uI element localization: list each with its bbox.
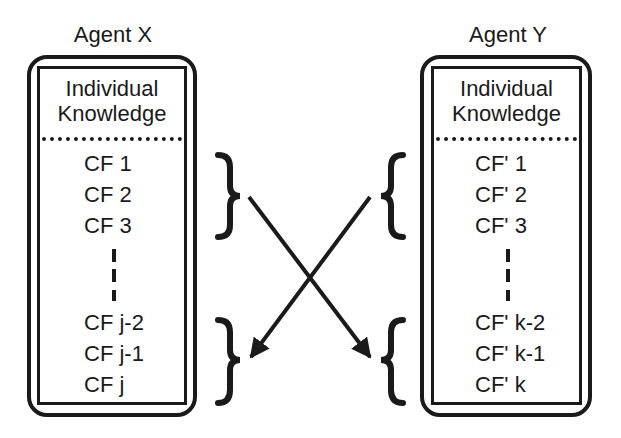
brace-right-icon (218, 155, 240, 237)
brace-left-icon (381, 320, 403, 403)
brace-left-icon (381, 155, 403, 237)
exchange-graphics (0, 0, 621, 438)
brace-right-icon (218, 320, 240, 403)
